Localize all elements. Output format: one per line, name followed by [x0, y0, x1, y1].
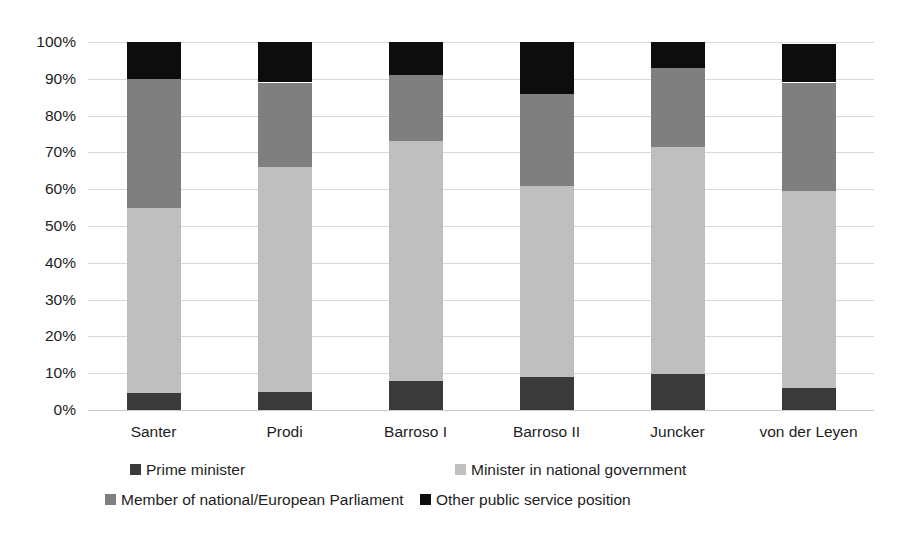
- legend-item-label: Prime minister: [146, 462, 245, 478]
- bar-segment[interactable]: [520, 42, 574, 94]
- bar-segment[interactable]: [782, 388, 836, 410]
- bar-segment[interactable]: [127, 393, 181, 410]
- bar-segment[interactable]: [782, 191, 836, 388]
- y-axis-tick-label: 60%: [45, 181, 76, 197]
- bar-segment[interactable]: [651, 68, 705, 147]
- legend-item-label: Other public service position: [436, 492, 631, 508]
- legend-row-2: Member of national/European ParliamentOt…: [0, 492, 903, 520]
- x-axis-tick-label: von der Leyen: [759, 424, 857, 440]
- bar-column[interactable]: [258, 42, 312, 410]
- legend-row-1: Prime ministerMinister in national gover…: [0, 462, 903, 490]
- y-axis-tick-label: 0%: [54, 402, 76, 418]
- bar-segment[interactable]: [389, 42, 443, 75]
- y-axis-tick-label: 10%: [45, 365, 76, 381]
- bar-segment[interactable]: [258, 42, 312, 82]
- y-axis-tick-label: 20%: [45, 329, 76, 345]
- bar-segment[interactable]: [389, 75, 443, 141]
- square-swatch-icon: [130, 464, 141, 475]
- y-axis: 0%10%20%30%40%50%60%70%80%90%100%: [0, 42, 80, 410]
- chart-legend: Prime ministerMinister in national gover…: [0, 462, 903, 532]
- x-axis-tick-label: Barroso I: [384, 424, 447, 440]
- y-axis-tick-label: 100%: [36, 34, 76, 50]
- square-swatch-icon: [420, 494, 431, 505]
- bar-segment[interactable]: [389, 381, 443, 410]
- bar-segment[interactable]: [258, 83, 312, 168]
- x-axis-tick-label: Juncker: [650, 424, 704, 440]
- y-axis-tick-label: 40%: [45, 255, 76, 271]
- legend-item-label: Minister in national government: [471, 462, 686, 478]
- stacked-bar-chart: 0%10%20%30%40%50%60%70%80%90%100% Santer…: [0, 0, 903, 546]
- bar-segment[interactable]: [782, 44, 836, 83]
- y-axis-tick-label: 70%: [45, 145, 76, 161]
- x-axis-tick-label: Barroso II: [513, 424, 580, 440]
- y-axis-tick-label: 30%: [45, 292, 76, 308]
- bar-segment[interactable]: [651, 147, 705, 374]
- bar-segment[interactable]: [520, 377, 574, 410]
- bar-segment[interactable]: [127, 208, 181, 394]
- legend-item[interactable]: Member of national/European Parliament: [105, 492, 404, 508]
- bars-layer: [88, 42, 874, 410]
- bar-column[interactable]: [651, 42, 705, 410]
- bar-segment[interactable]: [127, 42, 181, 79]
- legend-item[interactable]: Prime minister: [130, 462, 245, 478]
- legend-item[interactable]: Other public service position: [420, 492, 631, 508]
- x-axis-tick-label: Santer: [131, 424, 177, 440]
- y-axis-tick-label: 90%: [45, 71, 76, 87]
- x-axis: SanterProdiBarroso IBarroso IIJunckervon…: [88, 414, 874, 448]
- bar-column[interactable]: [127, 42, 181, 410]
- bar-segment[interactable]: [520, 186, 574, 377]
- bar-segment[interactable]: [389, 141, 443, 380]
- bar-column[interactable]: [389, 42, 443, 410]
- bar-segment[interactable]: [258, 167, 312, 391]
- plot-area: [88, 42, 874, 410]
- square-swatch-icon: [105, 494, 116, 505]
- square-swatch-icon: [455, 464, 466, 475]
- x-axis-tick-label: Prodi: [266, 424, 302, 440]
- legend-item[interactable]: Minister in national government: [455, 462, 686, 478]
- bar-column[interactable]: [520, 42, 574, 410]
- gridline: [88, 410, 874, 411]
- bar-segment[interactable]: [520, 94, 574, 186]
- bar-segment[interactable]: [258, 392, 312, 410]
- legend-item-label: Member of national/European Parliament: [121, 492, 404, 508]
- y-axis-tick-label: 80%: [45, 108, 76, 124]
- bar-segment[interactable]: [651, 42, 705, 68]
- bar-column[interactable]: [782, 42, 836, 410]
- bar-segment[interactable]: [651, 374, 705, 410]
- bar-segment[interactable]: [782, 83, 836, 192]
- y-axis-tick-label: 50%: [45, 218, 76, 234]
- bar-segment[interactable]: [127, 79, 181, 208]
